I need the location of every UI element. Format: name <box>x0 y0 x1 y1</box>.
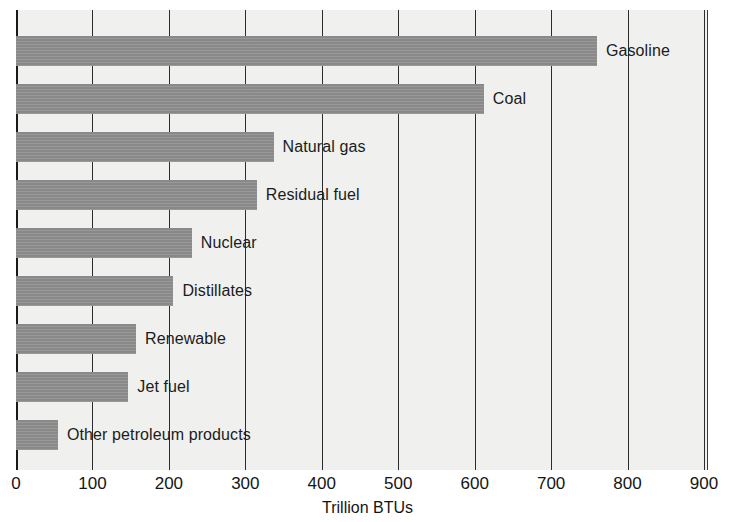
bar-row[interactable]: Coal <box>16 84 708 114</box>
bar[interactable] <box>16 420 58 450</box>
bar-row[interactable]: Nuclear <box>16 228 708 258</box>
x-tick-label-300: 300 <box>231 474 259 494</box>
bar-label: Renewable <box>145 330 226 348</box>
x-tick-label-400: 400 <box>308 474 336 494</box>
bar[interactable] <box>16 372 128 402</box>
bar[interactable] <box>16 180 257 210</box>
x-tick-label-200: 200 <box>155 474 183 494</box>
bar[interactable] <box>16 324 136 354</box>
bar-row[interactable]: Jet fuel <box>16 372 708 402</box>
bar-chart: GasolineCoalNatural gasResidual fuelNucl… <box>0 0 735 522</box>
bar-row[interactable]: Gasoline <box>16 36 708 66</box>
x-tick-label-700: 700 <box>537 474 565 494</box>
bar-label: Natural gas <box>283 138 366 156</box>
bar-label: Jet fuel <box>137 378 189 396</box>
x-tick-label-800: 800 <box>613 474 641 494</box>
bar[interactable] <box>16 228 192 258</box>
x-tick-label-100: 100 <box>78 474 106 494</box>
x-tick-label-0: 0 <box>11 474 20 494</box>
bar[interactable] <box>16 84 484 114</box>
x-tick-label-600: 600 <box>460 474 488 494</box>
bar-label: Other petroleum products <box>67 426 251 444</box>
bar-row[interactable]: Natural gas <box>16 132 708 162</box>
bar-row[interactable]: Residual fuel <box>16 180 708 210</box>
x-tick-label-500: 500 <box>384 474 412 494</box>
bar-row[interactable]: Renewable <box>16 324 708 354</box>
bar-label: Distillates <box>182 282 252 300</box>
x-tick-label-900: 900 <box>690 474 718 494</box>
bar-label: Residual fuel <box>266 186 360 204</box>
bar[interactable] <box>16 132 274 162</box>
bar-label: Coal <box>493 90 526 108</box>
x-axis-title: Trillion BTUs <box>0 499 735 517</box>
bar[interactable] <box>16 36 597 66</box>
bar-row[interactable]: Other petroleum products <box>16 420 708 450</box>
bar-row[interactable]: Distillates <box>16 276 708 306</box>
bar[interactable] <box>16 276 173 306</box>
bar-label: Gasoline <box>606 42 670 60</box>
bar-label: Nuclear <box>201 234 257 252</box>
